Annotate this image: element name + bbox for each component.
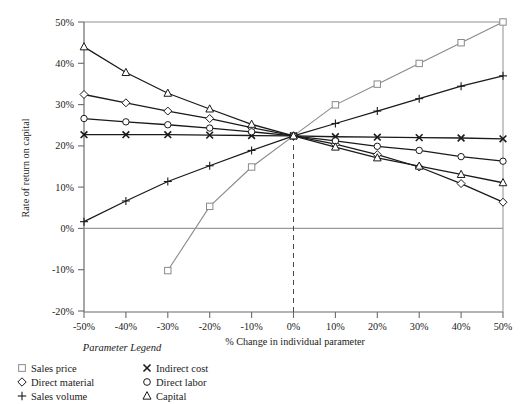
marker-square [458,40,464,46]
marker-circle [207,125,213,131]
marker-square [165,267,171,273]
y-tick-label: -10% [52,264,75,275]
y-tick-label: 50% [55,17,74,28]
marker-square [500,19,506,25]
y-tick-label: 40% [55,58,74,69]
legend-label-indirect-cost: Indirect cost [156,363,208,374]
marker-circle [144,379,151,386]
marker-circle [165,122,171,128]
marker-square [374,81,380,87]
y-tick-label: 10% [55,182,74,193]
x-tick-label: 20% [368,321,387,332]
x-tick-label: 50% [494,321,513,332]
x-tick-label: -40% [115,321,138,332]
x-tick-label: -20% [199,321,222,332]
marker-square [19,365,26,372]
marker-square [332,102,338,108]
x-tick-label: 10% [326,321,345,332]
y-tick-label: 30% [55,99,74,110]
marker-circle [123,119,129,125]
legend-label-direct-labor: Direct labor [156,377,207,388]
x-tick-label: -10% [241,321,264,332]
y-tick-label: 20% [55,140,74,151]
marker-circle [374,143,380,149]
marker-square [207,203,213,209]
marker-circle [416,147,422,153]
legend-label-sales-price: Sales price [31,363,77,374]
legend-label-sales-volume: Sales volume [31,391,88,402]
legend-label-capital: Capital [156,391,186,402]
marker-square [416,60,422,66]
marker-circle [500,158,506,164]
x-tick-label: -50% [73,321,96,332]
sensitivity-chart-figure: 50% 40% 30% 20% 10% 0% -10% -20% -50% -4… [0,0,527,404]
y-axis-title: Rate of return on capital [20,118,31,217]
legend-title: Parameter Legend [82,342,162,353]
marker-square [248,164,254,170]
x-tick-label: 0% [287,321,301,332]
legend-label-direct-material: Direct material [31,377,94,388]
x-tick-label: 30% [410,321,429,332]
x-tick-label: 40% [452,321,471,332]
y-tick-label: -20% [52,306,75,317]
x-tick-label: -30% [157,321,180,332]
marker-circle [458,153,464,159]
marker-circle [248,129,254,135]
y-tick-label: 0% [60,223,74,234]
x-axis-title: % Change in individual parameter [225,336,365,347]
marker-circle [81,115,87,121]
chart-canvas: 50% 40% 30% 20% 10% 0% -10% -20% -50% -4… [0,0,527,404]
